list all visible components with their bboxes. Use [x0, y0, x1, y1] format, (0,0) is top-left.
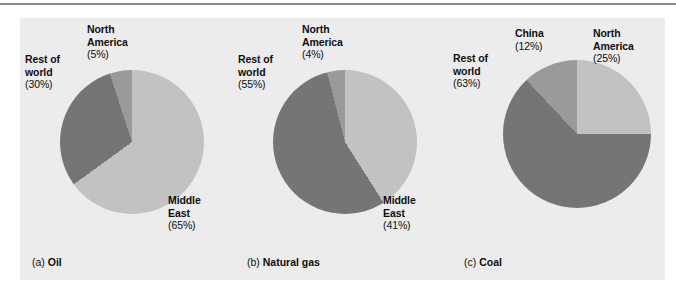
- label-gas-middle-east-line1: Middle: [383, 194, 416, 207]
- label-oil-middle-east-pct: (65%): [168, 219, 201, 232]
- pie-natural-gas-slices: [273, 70, 417, 214]
- label-oil-north-america-line2: America: [87, 36, 128, 49]
- label-oil-middle-east-line2: East: [168, 207, 201, 220]
- label-coal-north-america-line1: North: [593, 27, 634, 40]
- label-oil-middle-east: Middle East (65%): [168, 194, 201, 232]
- label-oil-rest-line2: world: [25, 66, 60, 79]
- label-oil-rest-pct: (30%): [25, 78, 60, 91]
- label-gas-rest-of-world: Rest of world (55%): [238, 53, 273, 91]
- label-oil-middle-east-line1: Middle: [168, 194, 201, 207]
- label-gas-middle-east: Middle East (41%): [383, 194, 416, 232]
- caption-coal-ordinal: (c): [464, 256, 476, 268]
- label-coal-rest-of-world: Rest of world (63%): [453, 52, 488, 90]
- label-gas-middle-east-pct: (41%): [383, 219, 416, 232]
- label-coal-rest-line1: Rest of: [453, 52, 488, 65]
- caption-natural-gas-ordinal: (b): [247, 256, 260, 268]
- figure-panel: North America (5%) Rest of world (30%) M…: [20, 18, 665, 280]
- pie-oil-slices: [60, 70, 204, 214]
- label-coal-north-america-pct: (25%): [593, 52, 634, 65]
- label-gas-north-america-pct: (4%): [302, 48, 343, 61]
- label-oil-rest-of-world: Rest of world (30%): [25, 53, 60, 91]
- label-gas-rest-line1: Rest of: [238, 53, 273, 66]
- label-gas-rest-pct: (55%): [238, 78, 273, 91]
- pie-coal-slices: [503, 60, 651, 208]
- label-coal-china: China (12%): [515, 27, 544, 52]
- label-gas-middle-east-line2: East: [383, 207, 416, 220]
- pie-chart-natural-gas: North America (4%) Rest of world (55%) M…: [235, 18, 450, 280]
- label-coal-north-america-line2: America: [593, 40, 634, 53]
- label-oil-north-america-line1: North: [87, 23, 128, 36]
- label-gas-north-america-line2: America: [302, 36, 343, 49]
- caption-coal: (c) Coal: [464, 256, 502, 268]
- label-gas-north-america-line1: North: [302, 23, 343, 36]
- label-oil-north-america-pct: (5%): [87, 48, 128, 61]
- label-coal-rest-line2: world: [453, 65, 488, 78]
- pie-chart-oil: North America (5%) Rest of world (30%) M…: [20, 18, 235, 280]
- label-gas-rest-line2: world: [238, 66, 273, 79]
- label-gas-north-america: North America (4%): [302, 23, 343, 61]
- label-coal-north-america: North America (25%): [593, 27, 634, 65]
- label-oil-north-america: North America (5%): [87, 23, 128, 61]
- label-coal-china-pct: (12%): [515, 40, 544, 53]
- caption-natural-gas: (b) Natural gas: [247, 256, 320, 268]
- top-horizontal-rule: [0, 3, 676, 5]
- figure-container: North America (5%) Rest of world (30%) M…: [0, 0, 676, 295]
- label-coal-china-line1: China: [515, 27, 544, 40]
- caption-coal-title: Coal: [479, 256, 502, 268]
- caption-natural-gas-title: Natural gas: [263, 256, 320, 268]
- caption-oil-title: Oil: [48, 256, 62, 268]
- caption-oil-ordinal: (a): [32, 256, 45, 268]
- label-coal-rest-pct: (63%): [453, 77, 488, 90]
- caption-oil: (a) Oil: [32, 256, 62, 268]
- pie-chart-coal: China (12%) North America (25%) Rest of …: [450, 18, 665, 280]
- label-oil-rest-line1: Rest of: [25, 53, 60, 66]
